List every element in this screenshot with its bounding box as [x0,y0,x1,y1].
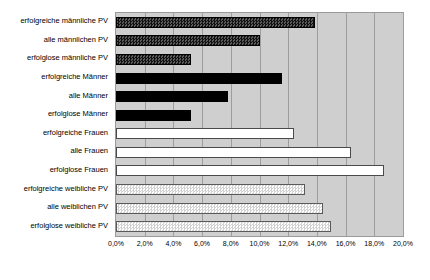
y-axis-labels: erfolgreiche männliche PValle männlichen… [0,12,112,237]
x-axis-tick-label: 6,0% [194,240,210,247]
x-axis-tick-label: 10,0% [250,240,270,247]
bar [116,17,315,28]
y-axis-tick-label: alle männlichen PV [44,35,108,44]
y-axis-tick-label: erfolglose weibliche PV [30,221,108,230]
bar [116,91,228,102]
y-axis-tick-label: alle Frauen [70,146,108,155]
bar [116,73,282,84]
y-axis-tick-label: erfolgreiche männliche PV [20,16,108,25]
bar [116,128,294,139]
x-axis-tick-label: 12,0% [278,240,298,247]
bar-row [116,91,403,102]
y-axis-tick-label: erfolgreiche weibliche PV [24,184,108,193]
x-axis-tick-label: 0,0% [108,240,124,247]
bar-row [116,221,403,232]
chart-container: erfolgreiche männliche PValle männlichen… [0,0,430,280]
y-axis-tick-label: erfolglose Frauen [50,165,108,174]
bar-row [116,35,403,46]
y-axis-tick-label: erfolgreiche Frauen [43,128,108,137]
bar-series [116,13,403,236]
x-axis-tick-label: 2,0% [137,240,153,247]
x-axis-tick-label: 4,0% [165,240,181,247]
bar-row [116,54,403,65]
y-axis-tick-label: erfolglose männliche PV [27,53,108,62]
x-axis-tick-label: 8,0% [223,240,239,247]
bar [116,203,323,214]
y-axis-tick-label: erfolgreiche Männer [41,72,108,81]
bar [116,110,191,121]
x-axis-labels: 0,0%2,0%4,0%6,0%8,0%10,0%12,0%14,0%16,0%… [115,240,404,254]
bar [116,165,384,176]
x-axis-tick-label: 20,0% [393,240,413,247]
y-axis-tick-label: erfolglose Männer [48,109,108,118]
bar [116,221,331,232]
x-axis-tick-label: 16,0% [336,240,356,247]
x-axis-tick-label: 14,0% [307,240,327,247]
x-axis-tick-label: 18,0% [364,240,384,247]
bar [116,147,351,158]
bar-row [116,110,403,121]
plot-area [115,12,404,237]
bar [116,35,260,46]
y-axis-tick-label: alle weiblichen PV [47,202,108,211]
y-axis-tick-label: alle Männer [69,91,108,100]
bar [116,54,191,65]
bar-row [116,17,403,28]
bar-row [116,73,403,84]
bar-row [116,203,403,214]
bar [116,184,305,195]
bar-row [116,165,403,176]
bar-row [116,147,403,158]
bar-row [116,128,403,139]
bar-row [116,184,403,195]
gridline [403,13,404,236]
